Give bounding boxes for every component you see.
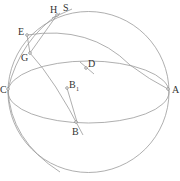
point-C: [7, 88, 10, 91]
point-A: [167, 88, 170, 91]
label-B1: B: [69, 79, 76, 90]
meridian-arc-left: [8, 13, 60, 172]
label-D: D: [88, 58, 95, 69]
sphere-diagram: H S E G D C A B 1 B: [0, 0, 180, 181]
point-B: [75, 121, 78, 124]
segment-B1-B: [67, 88, 77, 122]
label-S: S: [63, 2, 69, 13]
label-B1-subscript: 1: [76, 86, 79, 92]
point-E: [26, 34, 29, 37]
label-A: A: [172, 84, 180, 95]
equator-ellipse: [8, 61, 169, 123]
label-H: H: [50, 4, 57, 15]
label-C: C: [0, 84, 7, 95]
point-D: [85, 67, 88, 70]
point-B1: [66, 87, 69, 90]
label-B: B: [72, 126, 79, 137]
label-G: G: [21, 52, 28, 63]
label-E: E: [18, 26, 24, 37]
point-G: [29, 52, 32, 55]
